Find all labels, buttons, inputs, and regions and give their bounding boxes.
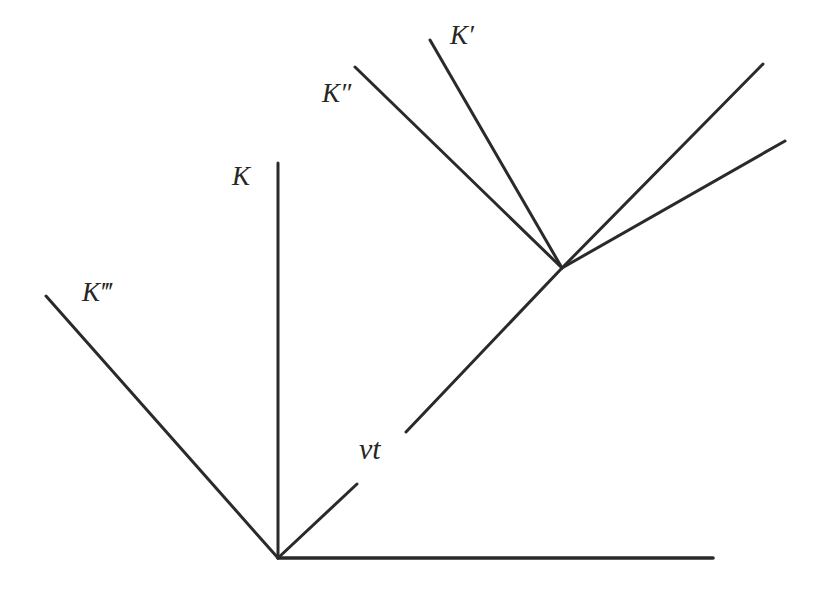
label-K-triple-prime: K‴ — [82, 279, 111, 306]
label-K-double-prime: K″ — [322, 80, 351, 107]
label-vt: vt — [359, 434, 381, 464]
figure-root: K K′ K″ K‴ vt — [0, 0, 825, 590]
figure-background — [0, 0, 825, 590]
label-K-prime: K′ — [450, 22, 474, 49]
diagram-canvas — [0, 0, 825, 590]
label-K: K — [232, 163, 250, 190]
